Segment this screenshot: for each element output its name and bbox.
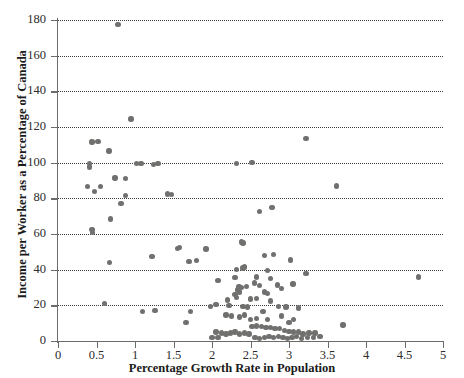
data-point [268,298,273,303]
data-point [229,313,234,318]
data-point [249,160,254,165]
data-point [245,304,250,309]
data-point [311,335,316,340]
data-point [244,284,249,289]
data-point [92,189,97,194]
data-point [254,296,259,301]
data-point [299,336,304,341]
x-tick-mark [289,341,290,348]
data-point [248,317,253,322]
data-point [177,245,182,250]
data-point [257,209,262,214]
x-tick-mark [58,341,59,348]
data-point [303,271,308,276]
data-point [203,246,208,251]
data-point [215,335,220,340]
data-point [155,161,160,166]
data-point [416,274,421,279]
data-point [213,302,218,307]
data-point [115,22,120,27]
data-point [108,216,113,221]
y-tick-mark [51,163,58,164]
data-point [123,176,128,181]
data-point [265,291,270,296]
x-axis-label: Percentage Growth Rate in Population [0,361,464,376]
data-point [303,136,308,141]
data-point [242,312,247,317]
data-point [112,175,117,180]
data-point [268,276,273,281]
data-point [240,240,245,245]
y-tick-mark [51,91,58,92]
data-point [169,192,174,197]
data-point [234,161,239,166]
x-tick-mark [405,341,406,348]
y-axis-label: Income per Worker as a Percentage of Can… [15,5,30,345]
y-tick-mark [51,198,58,199]
data-point [90,230,95,235]
data-point [269,205,274,210]
data-point [291,317,296,322]
data-point [107,260,112,265]
y-tick-mark [51,234,58,235]
data-point [102,301,107,306]
data-point [152,308,157,313]
data-point [242,264,247,269]
data-point [271,252,276,257]
data-point [254,316,259,321]
data-point [213,329,218,334]
data-point [257,283,262,288]
data-point [340,322,345,327]
y-tick-mark [51,127,58,128]
data-point [123,193,128,198]
data-point [138,161,143,166]
data-point [186,259,191,264]
data-point [209,335,214,340]
y-tick-mark [51,270,58,271]
data-point [215,278,220,283]
x-tick-mark [135,341,136,348]
data-point [265,317,270,322]
data-point [237,289,242,294]
data-point [225,297,230,302]
data-point [283,304,288,309]
x-tick-mark [443,341,444,348]
data-point [296,305,301,310]
data-point [95,139,100,144]
data-point [246,331,251,336]
data-point [305,335,310,340]
data-point [194,258,199,263]
data-point [226,303,231,308]
y-tick-mark [51,56,58,57]
data-point [276,304,281,309]
data-point [87,164,92,169]
x-tick-mark [328,341,329,348]
data-point [317,334,322,339]
y-tick-mark [51,305,58,306]
y-tick-mark [51,20,58,21]
data-point [260,309,265,314]
data-point [262,253,267,258]
data-point [98,184,103,189]
data-point [232,275,237,280]
scatter-chart-figure: 020406080100120140160180 00.511.522.533.… [0,0,464,378]
chart-canvas: 020406080100120140160180 00.511.522.533.… [0,0,464,378]
data-point [106,148,111,153]
data-point [279,286,284,291]
data-point [290,281,295,286]
data-point [288,257,293,262]
data-point [188,309,193,314]
x-tick-mark [366,341,367,348]
data-point [279,313,284,318]
data-point [234,295,239,300]
y-tick-mark [51,341,58,342]
data-point [234,267,239,272]
data-point [149,254,154,259]
data-point [183,320,188,325]
data-point [248,296,253,301]
data-point [334,183,339,188]
data-point [85,184,90,189]
data-point [89,139,94,144]
x-tick-mark [251,341,252,348]
x-tick-mark [212,341,213,348]
